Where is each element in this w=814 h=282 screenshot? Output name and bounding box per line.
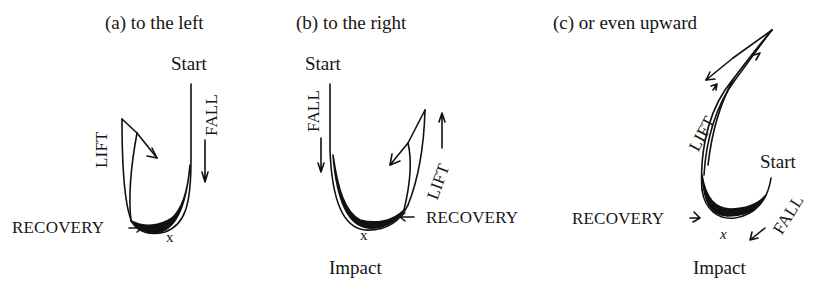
panel-b-fall-label: FALL bbox=[305, 90, 322, 132]
panel-b-title: (b) to the right bbox=[296, 13, 406, 32]
recovery-trajectory-diagram: (a) to the left Start FALL LIFT RECOVERY… bbox=[0, 0, 814, 282]
panel-c-recovery-label: RECOVERY bbox=[572, 210, 664, 227]
panel-b-recovery-label: RECOVERY bbox=[426, 209, 518, 226]
panel-a-recovery-label: RECOVERY bbox=[12, 219, 104, 236]
panel-a-start-label: Start bbox=[171, 54, 207, 73]
panel-b-impact-label: Impact bbox=[329, 258, 382, 277]
panel-c-title: (c) or even upward bbox=[553, 13, 697, 32]
panel-a-lift-label: LIFT bbox=[93, 131, 110, 168]
panel-c-impact-label: Impact bbox=[693, 258, 746, 277]
panel-c-start-label: Start bbox=[760, 152, 796, 171]
panel-a-fall-label: FALL bbox=[203, 94, 220, 136]
panel-a-trajectory bbox=[122, 84, 208, 234]
panel-a-title: (a) to the left bbox=[105, 13, 204, 32]
panel-c-impact-marker: x bbox=[720, 227, 727, 242]
panel-b-start-label: Start bbox=[305, 54, 341, 73]
panel-b-impact-marker: x bbox=[360, 228, 368, 243]
panel-a-impact-marker: x bbox=[166, 230, 174, 245]
